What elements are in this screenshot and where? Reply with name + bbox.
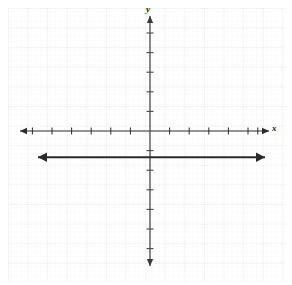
y-axis-arrow-down (147, 259, 153, 266)
y-axis (147, 16, 154, 266)
x-axis-arrow-right (262, 128, 269, 134)
x-axis-arrow-left (20, 128, 27, 134)
coordinate-plane-figure: y x (0, 0, 292, 285)
series-arrow-right (256, 153, 265, 162)
x-axis-label: x (272, 124, 277, 133)
x-axis (20, 128, 269, 135)
y-axis-arrow-up (147, 16, 153, 23)
graphed-line-series-0 (38, 153, 265, 162)
series-arrow-left (38, 153, 47, 162)
y-axis-label: y (146, 5, 150, 14)
plot-layer (0, 0, 292, 285)
